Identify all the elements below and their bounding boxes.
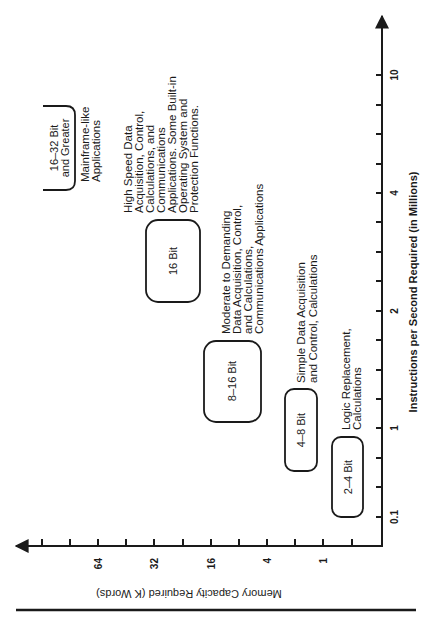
- ips-label-1: 1: [389, 425, 400, 431]
- memory-tick-labels: 1 4 16 32 64: [93, 558, 329, 570]
- desc-2-4-bit: Logic Replacement, Calculations: [340, 328, 363, 430]
- svg-text:Calculations: Calculations: [351, 367, 363, 430]
- ips-label-2: 2: [389, 308, 400, 314]
- box-16-bit-label: 16 Bit: [167, 247, 179, 275]
- mem-label-4: 4: [262, 558, 273, 564]
- mem-label-16: 16: [206, 558, 217, 570]
- box-16-32-bit-label-2: and Greater: [59, 118, 71, 177]
- ips-axis-title: Instructions per Second Required (in Mil…: [407, 171, 419, 412]
- svg-text:Applications: Applications: [90, 120, 102, 182]
- mem-label-32: 32: [149, 558, 160, 570]
- svg-text:and Control, Calculations: and Control, Calculations: [307, 254, 319, 383]
- desc-16-32-bit: Mainframe-like Applications: [79, 107, 102, 182]
- desc-16-bit: High Speed Data Acquisition, Control, Ca…: [122, 76, 200, 213]
- ips-label-10: 10: [389, 69, 400, 81]
- svg-text:Protection Functions.: Protection Functions.: [188, 105, 200, 213]
- desc-4-8-bit: Simple Data Acquisition and Control, Cal…: [295, 254, 319, 383]
- memory-axis-title: Memory Capacity Required (K Words): [96, 588, 282, 600]
- ips-label-0-1: 0.1: [389, 510, 400, 524]
- svg-text:Communications Applications: Communications Applications: [253, 184, 265, 334]
- box-2-4-bit-label: 2–4 Bit: [342, 460, 354, 494]
- bit-width-chart: 0.1 1 2 4 10 1 4 16 32 64 Instructions p…: [0, 0, 432, 618]
- box-4-8-bit-label: 4–8 Bit: [295, 413, 307, 447]
- desc-8-16-bit: Moderate to Demanding Data Acquisition, …: [220, 184, 265, 334]
- svg-text:Simple Data Acquisition: Simple Data Acquisition: [295, 262, 307, 383]
- box-8-16-bit-label: 8–16 Bit: [226, 361, 238, 401]
- ips-label-4: 4: [389, 190, 400, 196]
- ips-tick-labels: 0.1 1 2 4 10: [389, 69, 400, 524]
- mem-label-64: 64: [93, 558, 104, 570]
- mem-label-1: 1: [318, 558, 329, 564]
